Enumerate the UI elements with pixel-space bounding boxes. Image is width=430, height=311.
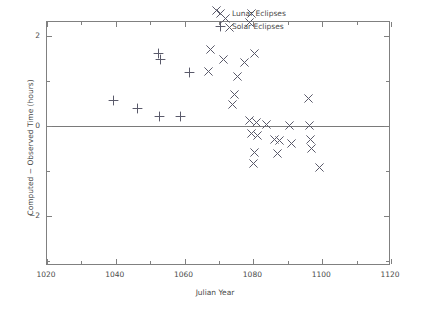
legend-item: Lunar Eclipses	[212, 8, 286, 19]
axis-tick	[288, 261, 289, 264]
axis-tick	[386, 81, 389, 82]
data-point	[269, 134, 280, 145]
x-axis-label: Julian Year	[0, 288, 430, 297]
axis-tick	[150, 261, 151, 264]
data-point	[175, 111, 186, 122]
eclipse-timing-scatter-figure: 102010401060108011001120 20−2 Julian Yea…	[0, 0, 430, 311]
zero-reference-line	[47, 126, 389, 127]
data-point	[155, 54, 166, 65]
data-point	[232, 71, 243, 82]
legend: Lunar EclipsesSolar Eclipses	[212, 8, 286, 34]
data-point	[274, 135, 285, 146]
data-point	[218, 54, 229, 65]
axis-tick	[47, 171, 50, 172]
axis-tick	[384, 36, 389, 37]
data-point	[305, 134, 316, 145]
data-point	[248, 158, 259, 169]
axis-tick	[391, 259, 392, 264]
data-point	[244, 115, 255, 126]
legend-label: Lunar Eclipses	[228, 9, 286, 18]
axis-tick	[81, 22, 82, 25]
data-point	[261, 119, 272, 130]
axis-tick	[288, 22, 289, 25]
data-point	[252, 130, 263, 141]
data-point	[205, 44, 216, 55]
legend-label: Solar Eclipses	[228, 22, 284, 31]
axis-tick	[150, 22, 151, 25]
data-point	[272, 148, 283, 159]
axis-tick	[47, 261, 50, 262]
axis-tick	[322, 22, 323, 27]
legend-marker-cross-icon	[212, 8, 228, 19]
data-point	[154, 111, 165, 122]
data-point	[229, 89, 240, 100]
axis-tick	[185, 259, 186, 264]
axis-tick	[384, 126, 389, 127]
data-point	[184, 67, 195, 78]
axis-tick	[47, 216, 52, 217]
axis-tick	[185, 22, 186, 27]
axis-tick	[47, 81, 50, 82]
x-tick-label: 1100	[312, 270, 331, 279]
data-point	[132, 103, 143, 114]
axis-tick	[386, 261, 389, 262]
data-point	[227, 99, 238, 110]
axis-tick	[47, 126, 52, 127]
axis-tick	[357, 22, 358, 25]
x-tick-label: 1080	[243, 270, 262, 279]
axis-tick	[47, 22, 48, 27]
data-point	[108, 95, 119, 106]
legend-marker-plus-icon	[212, 21, 228, 32]
axis-tick	[384, 216, 389, 217]
data-point	[314, 162, 325, 173]
x-tick-label: 1060	[174, 270, 193, 279]
axis-tick	[322, 259, 323, 264]
x-tick-label: 1040	[105, 270, 124, 279]
data-point	[303, 93, 314, 104]
plot-area	[46, 21, 390, 265]
data-point	[246, 128, 257, 139]
axis-tick	[116, 22, 117, 27]
axis-tick	[386, 171, 389, 172]
y-axis-label: Computed − Observed Time (hours)	[26, 33, 35, 263]
axis-tick	[391, 22, 392, 27]
x-tick-label: 1020	[36, 270, 55, 279]
data-point	[249, 147, 260, 158]
data-point	[203, 66, 214, 77]
data-point	[286, 138, 297, 149]
data-point	[153, 48, 164, 59]
data-point	[306, 143, 317, 154]
axis-tick	[253, 259, 254, 264]
data-point	[249, 48, 260, 59]
axis-tick	[47, 36, 52, 37]
axis-tick	[219, 261, 220, 264]
axis-tick	[81, 261, 82, 264]
x-tick-label: 1120	[380, 270, 399, 279]
data-point	[239, 57, 250, 68]
axis-tick	[357, 261, 358, 264]
legend-item: Solar Eclipses	[212, 21, 286, 32]
axis-tick	[116, 259, 117, 264]
